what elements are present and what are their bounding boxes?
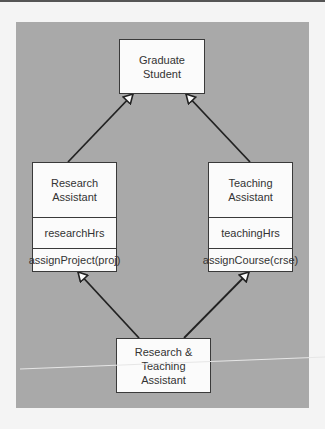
- scan-artifact-line: [0, 0, 325, 429]
